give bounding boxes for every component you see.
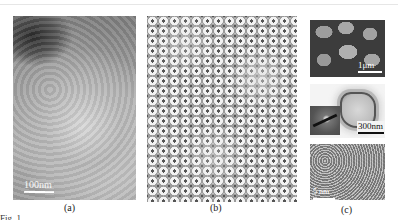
scale-bar-a-label: 100nm — [24, 179, 52, 190]
panel-c-middle-tem-image: 300nm — [310, 84, 385, 138]
panel-c-bottom-hrtem-image: 5 nm — [310, 144, 385, 200]
scale-bar-a: 100nm — [24, 180, 54, 193]
figure-caption: Fig. 1 ... — [0, 214, 398, 220]
scale-bar-c-bottom: 5 nm — [313, 187, 335, 200]
panel-b-label: (b) — [210, 202, 222, 213]
scale-bar-a-line — [24, 191, 54, 193]
scale-bar-c-middle: 300nm — [357, 121, 385, 134]
scale-bar-c-middle-label: 300nm — [358, 121, 383, 131]
panel-a-sem-image: 100nm — [13, 16, 136, 200]
panel-c-top-sem-image: 1μm — [310, 20, 385, 77]
panel-b-tem-image — [147, 16, 297, 202]
page-top-rule — [0, 4, 398, 5]
scale-bar-c-middle-line — [358, 132, 384, 134]
panel-a-label: (a) — [64, 202, 75, 213]
scale-bar-c-top-label: 1μm — [358, 60, 374, 70]
scale-bar-c-top: 1μm — [358, 60, 382, 73]
scale-bar-c-bottom-label: 5 nm — [313, 187, 329, 196]
saed-inset-image — [310, 106, 340, 135]
scale-bar-c-bottom-line — [313, 198, 335, 200]
scale-bar-c-top-line — [358, 71, 382, 73]
